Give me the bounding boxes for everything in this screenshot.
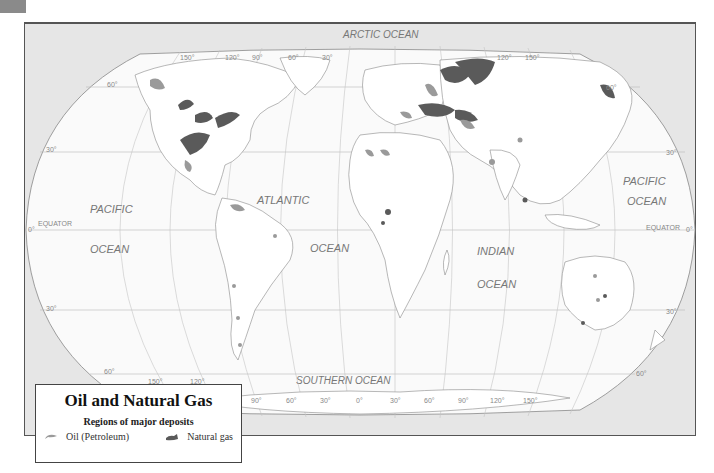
legend-subtitle: Regions of major deposits [36, 416, 241, 427]
indian-label-1: INDIAN [477, 245, 514, 257]
bottom-lon-30e: 30° [390, 397, 401, 404]
bottom-lon-30w: 30° [320, 397, 331, 404]
lat-0-right: 0° [686, 226, 693, 233]
lat-30n-left: 30° [46, 146, 57, 153]
lat-0-left: 0° [28, 226, 35, 233]
top-lon-120e: 120° [497, 54, 512, 61]
top-lon-150w: 150° [180, 54, 195, 61]
pacific-west-label-1: PACIFIC [90, 203, 133, 215]
legend-label-oil: Oil (Petroleum) [66, 431, 129, 442]
lat-30n-right: 30° [666, 149, 677, 156]
lat-60n-right: 60° [606, 84, 617, 91]
bottom-lon-90e: 90° [458, 397, 469, 404]
equator-label-left: EQUATOR [38, 220, 72, 228]
legend-title: Oil and Natural Gas [36, 391, 241, 411]
legend-items: Oil (Petroleum) Natural gas [36, 431, 241, 442]
legend-item-gas: Natural gas [165, 431, 233, 442]
top-lon-90w: 90° [252, 54, 263, 61]
bottom-lon-60w: 60° [286, 397, 297, 404]
bottom-lon-150e: 150° [523, 397, 538, 404]
lat-60s-right: 60° [636, 370, 647, 377]
top-lon-30w: 30° [322, 54, 333, 61]
lat-30s-right: 30° [666, 308, 677, 315]
indian-label-2: OCEAN [477, 278, 516, 290]
pacific-west-label-2: OCEAN [90, 243, 129, 255]
southern-ocean-label: SOUTHERN OCEAN [296, 375, 391, 386]
atlantic-label-1: ATLANTIC [256, 194, 309, 206]
pacific-east-label-2: OCEAN [627, 195, 666, 207]
legend-label-gas: Natural gas [187, 431, 233, 442]
atlantic-label-2: OCEAN [310, 242, 349, 254]
gas-swatch-icon [165, 433, 179, 441]
arctic-ocean-label: ARCTIC OCEAN [342, 29, 419, 40]
equator-label-right: EQUATOR [646, 224, 680, 232]
map-legend: Oil and Natural Gas Regions of major dep… [35, 384, 242, 463]
bottom-lon-0: 0° [356, 397, 363, 404]
lat-30s-left: 30° [46, 305, 57, 312]
oil-swatch-icon [44, 433, 58, 441]
bottom-lon-90w: 90° [251, 397, 262, 404]
bottom-lon-120e: 120° [490, 397, 505, 404]
lat-60s-left: 60° [104, 368, 115, 375]
legend-item-oil: Oil (Petroleum) [44, 431, 129, 442]
top-lon-150e: 150° [525, 54, 540, 61]
lat-60n-left: 60° [107, 81, 118, 88]
pacific-east-label-1: PACIFIC [623, 175, 666, 187]
top-lon-60w: 60° [288, 54, 299, 61]
bottom-lon-60e: 60° [424, 397, 435, 404]
top-lon-120w: 120° [225, 54, 240, 61]
